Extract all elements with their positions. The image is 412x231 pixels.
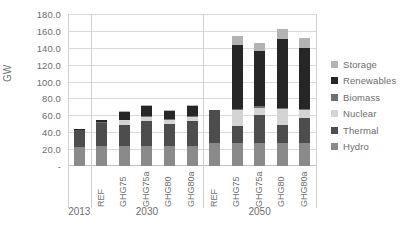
bar-stack[interactable]: [277, 29, 288, 166]
bar-stack[interactable]: [96, 120, 107, 166]
bar-segment[interactable]: [74, 130, 85, 148]
legend-item-label: Thermal: [343, 125, 379, 136]
bar-segment[interactable]: [232, 143, 243, 166]
bar-stack[interactable]: [119, 111, 130, 166]
x-axis-tick-label: REF: [96, 189, 106, 207]
bar-segment[interactable]: [187, 121, 198, 145]
bar-segment[interactable]: [277, 143, 288, 166]
x-axis-tick-label: GHG75: [231, 176, 241, 207]
x-axis-labels: REFGHG75GHG75aGHG80GHG80aREFGHG75GHG75aG…: [68, 167, 316, 207]
bar-segment[interactable]: [141, 106, 152, 116]
bar-stack[interactable]: [141, 105, 152, 166]
category-separator: [316, 14, 317, 208]
legend-item[interactable]: Renewables: [331, 73, 411, 90]
y-axis-tick-label: 140.0: [37, 42, 61, 53]
bar-segment[interactable]: [209, 143, 220, 166]
chart-legend: StorageRenewablesBiomassNuclearThermalHy…: [331, 56, 411, 155]
bar-segment[interactable]: [119, 112, 130, 120]
y-axis: 180.0160.0140.0120.0100.080.060.040.020.…: [0, 14, 66, 166]
x-axis-group-labels: 201320302050: [68, 206, 316, 226]
y-axis-tick-label: 40.0: [42, 127, 61, 138]
legend-item[interactable]: Nuclear: [331, 106, 411, 123]
bar-segment[interactable]: [232, 126, 243, 143]
bar-segment[interactable]: [299, 143, 310, 166]
x-axis-group-label: 2013: [68, 206, 90, 217]
bar-segment[interactable]: [164, 146, 175, 166]
bar-segment[interactable]: [187, 106, 198, 116]
bar-segment[interactable]: [141, 146, 152, 166]
bar-stack[interactable]: [299, 38, 310, 166]
x-axis-tick-label: GHG80: [276, 176, 286, 207]
bar-segment[interactable]: [299, 38, 310, 48]
bar-segment[interactable]: [277, 125, 288, 143]
bar-segment[interactable]: [141, 121, 152, 145]
bar-stack[interactable]: [187, 105, 198, 166]
bar-stack[interactable]: [254, 43, 265, 166]
x-axis-tick-label: GHG80a: [299, 171, 309, 207]
bar-segment[interactable]: [232, 110, 243, 126]
legend-item-label: Biomass: [343, 92, 380, 103]
legend-item-label: Storage: [343, 59, 377, 70]
x-axis-tick-label: GHG80a: [186, 171, 196, 207]
x-axis-tick-label: REF: [209, 189, 219, 207]
y-axis-tick-label: 60.0: [42, 110, 61, 121]
legend-swatch-icon: [331, 127, 338, 134]
bars-layer: [68, 14, 316, 166]
legend-item-label: Renewables: [343, 75, 396, 86]
y-axis-tick-label: 120.0: [37, 59, 61, 70]
bar-segment[interactable]: [254, 43, 265, 51]
bar-segment[interactable]: [299, 118, 310, 143]
x-axis-tick-label: GHG80: [163, 176, 173, 207]
x-axis-group-label: 2030: [136, 206, 158, 217]
x-axis-tick-label: GHG75: [118, 176, 128, 207]
legend-swatch-icon: [331, 110, 338, 117]
legend-swatch-icon: [331, 94, 338, 101]
bar-stack[interactable]: [74, 129, 85, 166]
bar-segment[interactable]: [119, 146, 130, 166]
bar-segment[interactable]: [277, 39, 288, 107]
y-axis-tick-label: 160.0: [37, 25, 61, 36]
y-axis-tick-label: 180.0: [37, 9, 61, 20]
bar-segment[interactable]: [254, 108, 265, 116]
bar-segment[interactable]: [232, 36, 243, 45]
bar-segment[interactable]: [209, 110, 220, 143]
bar-segment[interactable]: [277, 29, 288, 39]
y-axis-tick-label: -: [58, 161, 61, 172]
legend-item[interactable]: Biomass: [331, 89, 411, 106]
bar-segment[interactable]: [232, 45, 243, 108]
y-axis-tick-label: 100.0: [37, 76, 61, 87]
legend-swatch-icon: [331, 143, 338, 150]
legend-item[interactable]: Thermal: [331, 122, 411, 139]
legend-swatch-icon: [331, 77, 338, 84]
y-axis-tick-label: 80.0: [42, 93, 61, 104]
chart-container: GW 180.0160.0140.0120.0100.080.060.040.0…: [0, 0, 412, 231]
bar-segment[interactable]: [119, 125, 130, 146]
bar-segment[interactable]: [164, 111, 175, 119]
bar-stack[interactable]: [164, 110, 175, 166]
y-axis-tick-label: 20.0: [42, 144, 61, 155]
bar-segment[interactable]: [187, 146, 198, 166]
bar-segment[interactable]: [299, 48, 310, 109]
legend-item-label: Nuclear: [343, 108, 376, 119]
bar-segment[interactable]: [277, 109, 288, 125]
bar-stack[interactable]: [232, 36, 243, 166]
bar-segment[interactable]: [96, 146, 107, 166]
bar-segment[interactable]: [254, 115, 265, 143]
x-axis-group-label: 2050: [249, 206, 271, 217]
bar-stack[interactable]: [209, 110, 220, 166]
bar-segment[interactable]: [254, 51, 265, 106]
x-axis-tick-label: GHG75a: [254, 171, 264, 207]
bar-segment[interactable]: [254, 143, 265, 166]
legend-item[interactable]: Hydro: [331, 139, 411, 156]
bar-segment[interactable]: [299, 110, 310, 118]
legend-item-label: Hydro: [343, 141, 369, 152]
bar-segment[interactable]: [96, 123, 107, 146]
x-axis-tick-label: GHG75a: [141, 171, 151, 207]
legend-item[interactable]: Storage: [331, 56, 411, 73]
bar-segment[interactable]: [164, 124, 175, 146]
bar-segment[interactable]: [74, 147, 85, 166]
legend-swatch-icon: [331, 61, 338, 68]
